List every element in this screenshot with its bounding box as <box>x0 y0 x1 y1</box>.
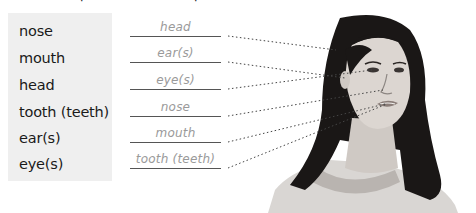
word-item: tooth (teeth) <box>19 104 109 120</box>
word-item: nose <box>19 23 53 39</box>
answer-field-3[interactable]: eye(s) <box>130 73 221 87</box>
answer-field-2[interactable]: ear(s) <box>130 46 221 60</box>
pointer-lines <box>228 36 387 168</box>
answer-underline <box>130 116 221 117</box>
pointer-eye <box>228 70 372 89</box>
pointer-mouth <box>228 104 385 142</box>
shoulders-shape <box>268 160 458 213</box>
pointer-ear <box>228 62 345 78</box>
nose-shape <box>381 74 392 94</box>
answer-underline <box>130 168 221 169</box>
word-item: head <box>19 77 54 93</box>
pointer-nose <box>228 90 383 116</box>
cropped-text-fragment: · <box>80 0 84 7</box>
word-list-panel: nose mouth head tooth (teeth) ear(s) eye… <box>8 13 112 181</box>
pointer-teeth <box>228 104 387 168</box>
hair-shape <box>290 15 441 200</box>
answer-field-4[interactable]: nose <box>130 100 221 114</box>
answer-underline <box>130 142 221 143</box>
face-shape <box>346 38 410 129</box>
neck-shape <box>345 118 398 173</box>
answer-field-1[interactable]: head <box>130 20 221 34</box>
answer-underline <box>130 62 221 63</box>
word-item: eye(s) <box>19 156 63 172</box>
answer-field-6[interactable]: tooth (teeth) <box>130 152 221 166</box>
answer-field-5[interactable]: mouth <box>130 126 221 140</box>
answer-underline <box>130 89 221 90</box>
word-item: ear(s) <box>19 130 60 146</box>
ear-shape <box>340 71 350 89</box>
word-item: mouth <box>19 50 65 66</box>
mouth-shape <box>377 101 398 107</box>
eye-left <box>367 68 379 73</box>
answer-underline <box>130 36 221 37</box>
pointer-head <box>228 36 336 50</box>
cropped-text-fragment: · <box>194 0 198 7</box>
eye-right <box>394 68 404 73</box>
